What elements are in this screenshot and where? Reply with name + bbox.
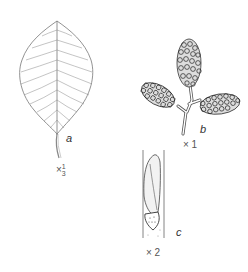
leaf-drawing [20,21,93,158]
fraction-denominator: 3 [62,170,66,177]
panel-label-b: b [200,123,206,135]
botanical-illustration [0,0,248,272]
scale-fraction-a: 13 [62,163,66,177]
cone-cluster-drawing [137,39,241,134]
scale-label-a: ×13 [56,163,66,177]
bud-drawing [143,150,164,238]
panel-label-c: c [176,226,182,238]
scale-label-c: × 2 [146,247,160,258]
fraction-numerator: 1 [62,163,66,170]
scale-label-b: × 1 [183,139,197,150]
panel-label-a: a [66,132,72,144]
